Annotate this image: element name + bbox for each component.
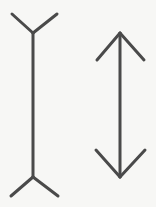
bottom-left-fin [11, 177, 33, 196]
bottom-right-fin [33, 177, 58, 196]
illusion-canvas [0, 0, 156, 207]
top-right-arrowhead [120, 33, 144, 60]
fins-outward-figure [11, 14, 58, 196]
top-left-fin [12, 14, 33, 33]
muller-lyer-drawing [0, 0, 156, 207]
bottom-left-arrowhead [96, 150, 120, 177]
top-left-arrowhead [97, 33, 120, 60]
arrowheads-inward-figure [96, 33, 145, 177]
top-right-fin [33, 14, 57, 33]
bottom-right-arrowhead [120, 150, 145, 177]
